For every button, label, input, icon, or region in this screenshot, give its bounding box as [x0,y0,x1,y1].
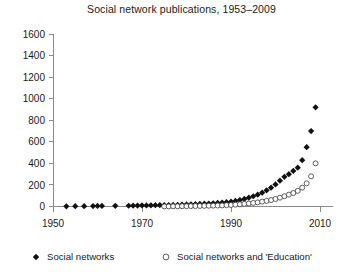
y-axis-tick-label: 0 [39,201,45,212]
legend-label: Social networks [47,251,114,262]
series-social-networks-education [162,161,318,209]
data-point [295,188,300,193]
x-axis-tick-label: 1990 [220,218,243,229]
y-axis-tick-label: 1400 [23,50,46,61]
chart-legend: Social networksSocial networks and 'Educ… [33,251,312,262]
data-point [300,185,305,190]
x-axis-tick-label: 1970 [131,218,154,229]
legend-circle-icon [163,254,169,260]
legend-label: Social networks and 'Education' [177,251,312,262]
data-point [99,203,105,209]
data-point [72,203,78,209]
data-point [304,181,309,186]
y-axis: 02004006008001000120014001600 [23,29,53,213]
data-point [313,161,318,166]
data-point [299,157,305,163]
y-axis-tick-label: 400 [28,158,45,169]
y-axis-tick-label: 1600 [23,29,46,40]
data-point [308,128,314,134]
data-point [309,174,314,179]
data-point [81,203,87,209]
y-axis-tick-label: 200 [28,180,45,191]
data-point [312,104,318,110]
y-axis-tick-label: 800 [28,115,45,126]
data-point [63,203,69,209]
legend-item: Social networks and 'Education' [163,251,312,262]
series-social-networks [63,104,318,209]
scatter-plot: 02004006008001000120014001600 1950197019… [0,0,363,276]
data-point [295,165,301,171]
data-point [112,203,118,209]
chart-container: Social network publications, 1953–2009 0… [0,0,363,276]
data-point [277,178,283,184]
y-axis-tick-label: 1200 [23,72,46,83]
data-point [272,181,278,187]
data-series-layer [63,104,318,209]
data-point [304,144,310,150]
x-axis: 1950197019902010 [42,207,333,229]
y-axis-tick-label: 1000 [23,93,46,104]
y-axis-tick-label: 600 [28,136,45,147]
legend-item: Social networks [33,251,115,262]
legend-diamond-icon [33,254,39,260]
x-axis-tick-label: 2010 [309,218,332,229]
data-point [290,168,296,174]
x-axis-tick-label: 1950 [42,218,65,229]
